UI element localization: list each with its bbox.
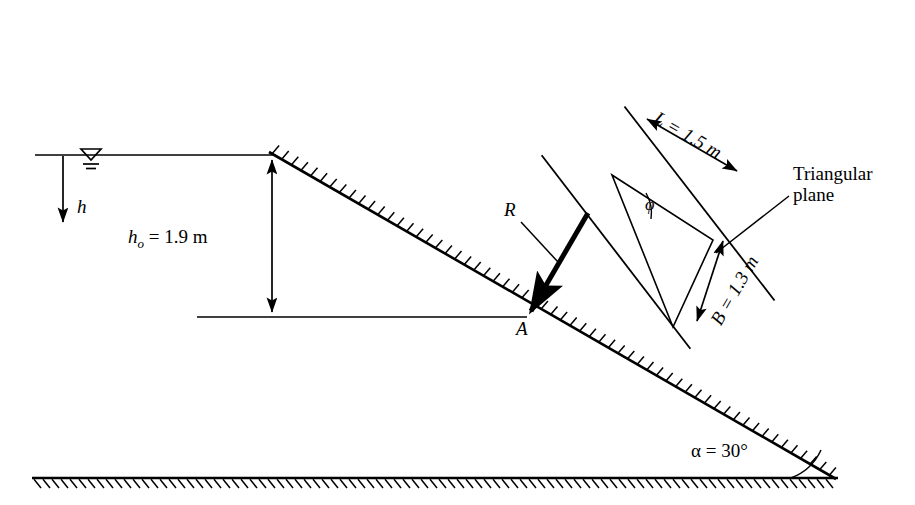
resultant-force-label: R [504, 199, 516, 220]
triangular-plane-line2: plane [793, 184, 834, 205]
alpha-angle-label: α = 30° [691, 440, 748, 461]
phi-angle-label: φ [645, 195, 654, 214]
h0-symbol: h [128, 226, 138, 247]
triangle-plane-outline [612, 175, 713, 327]
point-A-label: A [516, 318, 528, 339]
h0-value: = 1.9 m [144, 226, 208, 247]
triangular-plane-label: Triangularplane [793, 163, 873, 206]
h0-label: ho = 1.9 m [128, 226, 208, 251]
depth-h-label: h [77, 196, 87, 217]
ground-line [32, 478, 838, 488]
water-level-icon [81, 149, 101, 169]
inclined-surface [269, 146, 836, 479]
resultant-force-arrow [531, 213, 588, 311]
triangular-plane-leader [716, 196, 789, 253]
resultant-label-leader [521, 222, 558, 262]
diagram-canvas [0, 0, 915, 505]
triangular-plane-line1: Triangular [793, 163, 873, 184]
hydrostatics-diagram: h ho = 1.9 m L = 1.5 m B = 1.3 m α = 30°… [0, 0, 915, 505]
plane-parallel-lines [542, 90, 775, 365]
